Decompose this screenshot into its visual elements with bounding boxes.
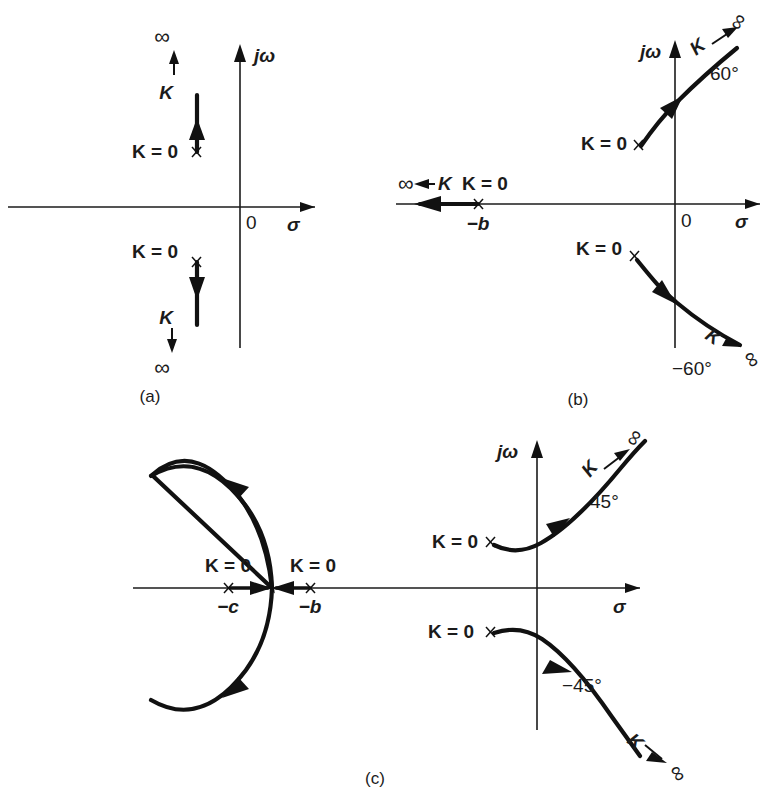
panel-b-k-upper: K bbox=[686, 33, 711, 59]
panel-a-imag-axis bbox=[234, 44, 246, 348]
panel-a-upper-branch bbox=[189, 95, 205, 152]
panel-a-sigma-label: σ bbox=[287, 214, 301, 235]
panel-b-origin-label: 0 bbox=[681, 210, 692, 231]
panel-c-kzero-c: K = 0 bbox=[205, 555, 251, 576]
panel-c-real-axis bbox=[133, 583, 640, 593]
panel-a-lower-branch bbox=[189, 262, 205, 325]
panel-a: ∞ K K = 0 K = 0 K ∞ jω σ 0 (a) bbox=[8, 24, 315, 406]
panel-b-kzero-real: K = 0 bbox=[462, 173, 508, 194]
panel-c-pole-b-label: −b bbox=[299, 596, 322, 617]
panel-c-hyperbola-lower bbox=[151, 588, 272, 710]
panel-b-kzero-lower: K = 0 bbox=[576, 238, 622, 259]
root-locus-svg: ∞ K K = 0 K = 0 K ∞ jω σ 0 (a) bbox=[0, 0, 766, 795]
panel-c-angle-minus-45: −45° bbox=[562, 675, 602, 696]
panel-c-kzero-b: K = 0 bbox=[290, 555, 336, 576]
panel-c-k-upper: K bbox=[577, 456, 603, 481]
panel-c-k-lower: K bbox=[623, 729, 648, 755]
panel-a-k-bottom: K bbox=[159, 307, 174, 328]
panel-c-imag-axis bbox=[531, 440, 543, 730]
panel-b-pole-b-label: −b bbox=[467, 213, 490, 234]
panel-a-k-arrow-down bbox=[167, 328, 177, 353]
panel-b-k-arrow-real bbox=[414, 179, 435, 189]
panel-c: K = 0 −c K = 0 −b K = 0 K = 0 K ∞ 45° K … bbox=[133, 424, 693, 788]
panel-c-kzero-upper: K = 0 bbox=[432, 531, 478, 552]
panel-b-k-real: K bbox=[438, 173, 453, 194]
panel-a-caption: (a) bbox=[140, 387, 161, 406]
panel-a-kzero-top: K = 0 bbox=[132, 141, 178, 162]
panel-c-kzero-lower: K = 0 bbox=[428, 621, 474, 642]
panel-a-kzero-bottom: K = 0 bbox=[132, 241, 178, 262]
panel-c-infinity-lower: ∞ bbox=[664, 760, 693, 786]
panel-a-k-arrow-up bbox=[169, 50, 179, 75]
root-locus-figure: ∞ K K = 0 K = 0 K ∞ jω σ 0 (a) bbox=[0, 0, 766, 795]
panel-a-jomega-label: jω bbox=[251, 45, 275, 66]
panel-c-pole-upper-right bbox=[486, 537, 495, 547]
panel-c-k-arrow-lower bbox=[645, 745, 667, 763]
panel-b-real-branch bbox=[414, 196, 478, 212]
panel-b-angle-minus-60: −60° bbox=[672, 358, 712, 379]
panel-c-sigma-label: σ bbox=[613, 596, 627, 617]
panel-b-caption: (b) bbox=[568, 390, 589, 409]
panel-b-kzero-upper: K = 0 bbox=[581, 133, 627, 154]
panel-b-angle-60: 60° bbox=[710, 63, 739, 84]
panel-a-k-top: K bbox=[159, 82, 174, 103]
panel-c-infinity-upper: ∞ bbox=[619, 424, 648, 450]
panel-b: ∞ K K = 0 −b K = 0 K = 0 K ∞ 60° K ∞ −60… bbox=[396, 8, 766, 409]
panel-c-real-branch-right bbox=[272, 581, 310, 595]
panel-b-jomega-label: jω bbox=[637, 41, 661, 62]
panel-a-infinity-top: ∞ bbox=[154, 24, 170, 49]
panel-a-origin-label: 0 bbox=[246, 212, 257, 233]
panel-a-infinity-bottom: ∞ bbox=[154, 355, 170, 380]
panel-b-infinity-lower: ∞ bbox=[738, 346, 766, 372]
panel-b-infinity-left: ∞ bbox=[398, 171, 414, 196]
panel-c-jomega-label: jω bbox=[494, 441, 518, 462]
panel-b-sigma-label: σ bbox=[735, 211, 749, 232]
panel-c-angle-45: 45° bbox=[590, 491, 619, 512]
panel-c-pole-c-label: −c bbox=[217, 596, 239, 617]
panel-c-caption: (c) bbox=[365, 769, 385, 788]
panel-b-pole-lower bbox=[630, 251, 639, 261]
panel-a-real-axis bbox=[8, 202, 315, 212]
